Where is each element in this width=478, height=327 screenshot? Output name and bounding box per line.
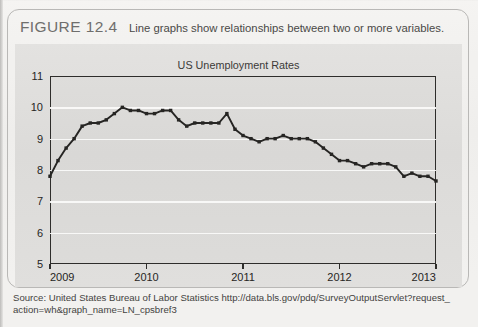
x-axis-tick: [49, 264, 50, 269]
data-point-marker: [233, 128, 236, 131]
data-point-marker: [378, 162, 381, 165]
data-point-marker: [386, 162, 389, 165]
data-point-marker: [225, 112, 228, 115]
line-series: [50, 76, 436, 264]
chart-title: US Unemployment Rates: [15, 59, 462, 71]
y-axis-tick-label: 11: [32, 70, 43, 82]
y-axis-tick-label: 5: [37, 258, 43, 270]
chart-plot-area: 567891011 20092010201120122013: [50, 76, 436, 264]
data-point-marker: [394, 165, 397, 168]
data-point-marker: [322, 146, 325, 149]
data-point-marker: [298, 137, 301, 140]
y-axis-tick-label: 10: [31, 101, 43, 113]
data-point-marker: [354, 162, 357, 165]
source-citation: Source: United States Bureau of Labor St…: [13, 292, 465, 316]
data-point-marker: [185, 124, 188, 127]
y-axis-tick-label: 9: [37, 133, 43, 145]
page-left-edge: [0, 0, 3, 327]
data-point-marker: [137, 109, 140, 112]
data-point-marker: [290, 137, 293, 140]
data-point-marker: [153, 112, 156, 115]
data-point-marker: [193, 121, 196, 124]
data-point-marker: [314, 140, 317, 143]
data-point-marker: [145, 112, 148, 115]
data-point-marker: [48, 175, 51, 178]
figure-caption-text: Line graphs show relationships between t…: [129, 22, 444, 34]
data-point-marker: [129, 109, 132, 112]
data-point-marker: [249, 137, 252, 140]
data-point-marker: [169, 109, 172, 112]
data-point-marker: [362, 165, 365, 168]
data-point-marker: [418, 175, 421, 178]
data-point-marker: [241, 134, 244, 137]
data-point-marker: [113, 112, 116, 115]
data-point-marker: [209, 121, 212, 124]
data-point-marker: [121, 106, 124, 109]
data-point-marker: [410, 171, 413, 174]
y-axis-tick-label: 6: [37, 227, 43, 239]
data-point-marker: [265, 137, 268, 140]
data-point-marker: [56, 159, 59, 162]
data-point-marker: [426, 175, 429, 178]
data-point-marker: [434, 179, 437, 182]
source-line-2: action=wh&graph_name=LN_cpsbref3: [13, 304, 465, 316]
data-point-marker: [72, 137, 75, 140]
figure-caption: FIGURE 12.4 Line graphs show relationshi…: [20, 18, 444, 36]
x-axis-tick-label: 2009: [50, 271, 74, 283]
data-point-marker: [257, 140, 260, 143]
x-axis-tick: [242, 264, 243, 269]
data-point-marker: [80, 124, 83, 127]
data-point-marker: [177, 118, 180, 121]
data-point-marker: [282, 134, 285, 137]
data-point-marker: [402, 175, 405, 178]
chart-container: US Unemployment Rates 567891011 20092010…: [15, 44, 462, 287]
data-point-marker: [346, 159, 349, 162]
y-axis-tick-label: 7: [37, 195, 43, 207]
x-axis-tick: [339, 264, 340, 269]
data-point-marker: [105, 118, 108, 121]
x-axis-tick-label: 2012: [327, 271, 351, 283]
figure-number: FIGURE 12.4: [20, 18, 117, 35]
y-axis-tick-label: 8: [37, 164, 43, 176]
data-point-marker: [217, 121, 220, 124]
x-axis-tick-label: 2011: [231, 271, 255, 283]
x-axis-tick-label: 2013: [412, 271, 436, 283]
data-point-marker: [89, 121, 92, 124]
data-point-marker: [97, 121, 100, 124]
x-axis-tick-label: 2010: [134, 271, 158, 283]
data-point-marker: [201, 121, 204, 124]
data-point-marker: [273, 137, 276, 140]
data-point-marker: [370, 162, 373, 165]
data-point-marker: [64, 146, 67, 149]
data-point-marker: [306, 137, 309, 140]
data-point-marker: [338, 159, 341, 162]
x-axis-tick: [146, 264, 147, 269]
source-line-1: Source: United States Bureau of Labor St…: [13, 292, 465, 304]
data-point-marker: [330, 153, 333, 156]
data-point-marker: [161, 109, 164, 112]
x-axis-tick: [435, 264, 436, 269]
